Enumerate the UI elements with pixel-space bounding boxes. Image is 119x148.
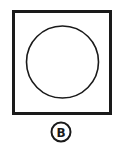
diagram-figure: B — [0, 0, 119, 148]
figure-label: B — [56, 126, 65, 140]
inner-circle — [27, 26, 99, 98]
